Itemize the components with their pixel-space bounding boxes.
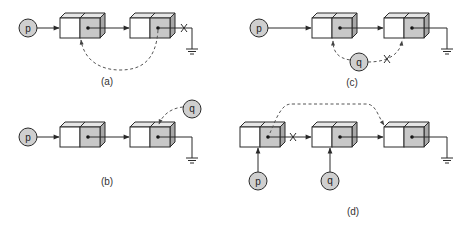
- cross-mark-icon: [384, 55, 390, 63]
- list-node: [384, 122, 429, 147]
- panel-label: (a): [101, 76, 113, 87]
- null-ground-icon: [441, 158, 453, 163]
- list-node: [240, 122, 285, 147]
- list-node: [312, 13, 357, 38]
- pointer-p: p: [19, 128, 37, 146]
- panel-a: p (a): [19, 13, 198, 87]
- pointer-label: p: [256, 23, 262, 34]
- pointer-label: p: [255, 176, 261, 187]
- pointer-p: p: [249, 172, 267, 190]
- pointer-p: p: [250, 19, 268, 37]
- null-ground-icon: [186, 158, 198, 163]
- dashed-q-link: [159, 107, 183, 124]
- pointer-q: q: [321, 172, 339, 190]
- list-node: [130, 13, 175, 38]
- panel-label: (c): [346, 77, 358, 88]
- dashed-q-to-node2: [368, 41, 402, 62]
- pointer-q: q: [350, 53, 368, 71]
- panel-c: p q (c): [250, 13, 453, 88]
- pointer-label: p: [25, 132, 31, 143]
- pointer-label: q: [327, 175, 333, 186]
- list-node: [130, 122, 175, 147]
- pointer-p: p: [19, 19, 37, 37]
- pointer-label: q: [356, 57, 362, 68]
- panel-b: p q (b): [19, 100, 201, 187]
- null-ground-icon: [441, 49, 453, 54]
- null-ground-icon: [186, 49, 198, 54]
- pointer-label: q: [189, 103, 195, 114]
- list-node: [384, 13, 429, 38]
- linked-list-diagram: p (a) p q (b): [0, 0, 465, 226]
- list-node: [60, 13, 105, 38]
- pointer-q: q: [183, 100, 201, 118]
- dashed-q-to-node1: [333, 41, 350, 60]
- panel-label: (d): [347, 206, 359, 217]
- pointer-label: p: [25, 23, 31, 34]
- panel-label: (b): [101, 176, 113, 187]
- list-node: [60, 122, 105, 147]
- panel-d: p q (d): [240, 104, 453, 217]
- list-node: [312, 122, 357, 147]
